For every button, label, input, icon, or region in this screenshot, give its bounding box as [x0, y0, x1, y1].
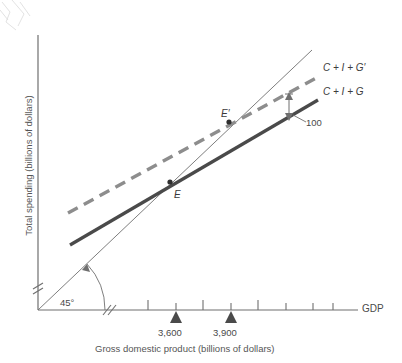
- chart-figure: Total spending (billions of dollars) Gro…: [0, 0, 402, 363]
- curve-c-i-g-prime: [68, 78, 316, 213]
- chart-canvas: [0, 0, 402, 363]
- curve-c-i-g: [70, 100, 318, 245]
- curve-label-c-i-g-prime: C + I + G′: [323, 62, 365, 73]
- x-axis-ticks: [148, 300, 333, 310]
- point-E-prime-dot: [226, 119, 231, 124]
- forty-five-degree-line: [38, 50, 312, 310]
- angle-label-45-degrees: 45°: [60, 297, 74, 308]
- point-label-E: E: [174, 189, 181, 200]
- point-E-dot: [167, 179, 172, 184]
- x-tick-label-3900: 3,900: [213, 327, 237, 338]
- angle-arrow-head-icon: [82, 264, 90, 272]
- angle-arc: [87, 264, 105, 310]
- x-tick-label-3600: 3,600: [158, 327, 182, 338]
- shift-arrow-head-up-icon: [285, 92, 293, 100]
- shift-label-leader: [293, 115, 306, 122]
- annotation-label-shift-100: 100: [306, 117, 322, 128]
- y-axis-title: Total spending (billions of dollars): [23, 81, 34, 251]
- x-axis-end-label-gdp: GDP: [362, 303, 384, 314]
- point-label-E-prime: E′: [221, 108, 230, 119]
- curve-label-c-i-g: C + I + G: [323, 86, 364, 97]
- tick-marker-3600: [170, 311, 182, 323]
- scan-artifact: [0, 0, 30, 30]
- tick-marker-3900: [225, 311, 237, 323]
- x-axis-title: Gross domestic product (billions of doll…: [95, 343, 275, 354]
